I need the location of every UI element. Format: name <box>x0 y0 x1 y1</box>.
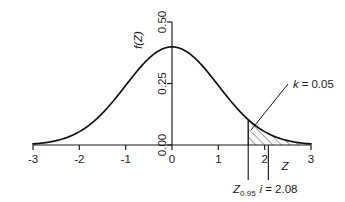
x-tick-label: 0 <box>169 153 175 165</box>
x-tick-label: -3 <box>28 153 38 165</box>
y-tick-label: 0.00 <box>156 134 168 156</box>
y-tick-label: 0.25 <box>156 72 168 94</box>
observed-value: = 2.08 <box>265 183 297 195</box>
critical-value-caption: Z0.95i= 2.08 <box>232 183 297 198</box>
x-tick-label: -2 <box>74 153 84 165</box>
x-tick-label: -1 <box>121 153 131 165</box>
y-axis-title: f(Z) <box>132 31 144 49</box>
normal-distribution-figure: -3-2-10123 0.000.250.50 f(Z) Z k=0.05 Z0… <box>0 0 345 202</box>
x-tick-label: 2 <box>261 153 267 165</box>
plot-canvas: -3-2-10123 0.000.250.50 f(Z) Z k=0.05 Z0… <box>0 0 345 202</box>
area-annotation-equals: = <box>302 78 309 90</box>
area-annotation-value: 0.05 <box>311 78 333 90</box>
area-annotation-label: k=0.05 <box>293 78 334 90</box>
x-axis-ticks <box>79 145 264 150</box>
area-annotation-symbol: k <box>293 78 300 90</box>
x-tick-label: 3 <box>308 153 314 165</box>
y-tick-label: 0.50 <box>156 11 168 33</box>
y-axis-tick-labels: 0.000.250.50 <box>156 11 168 156</box>
x-axis-title: Z <box>280 160 289 172</box>
annotation-leader-line <box>251 84 288 130</box>
observed-symbol: i <box>260 183 263 195</box>
x-axis-tick-labels: -3-2-10123 <box>28 153 314 165</box>
shaded-tail-region <box>248 120 311 145</box>
critical-value-subscript: 0.95 <box>240 189 256 198</box>
x-tick-label: 1 <box>215 153 221 165</box>
